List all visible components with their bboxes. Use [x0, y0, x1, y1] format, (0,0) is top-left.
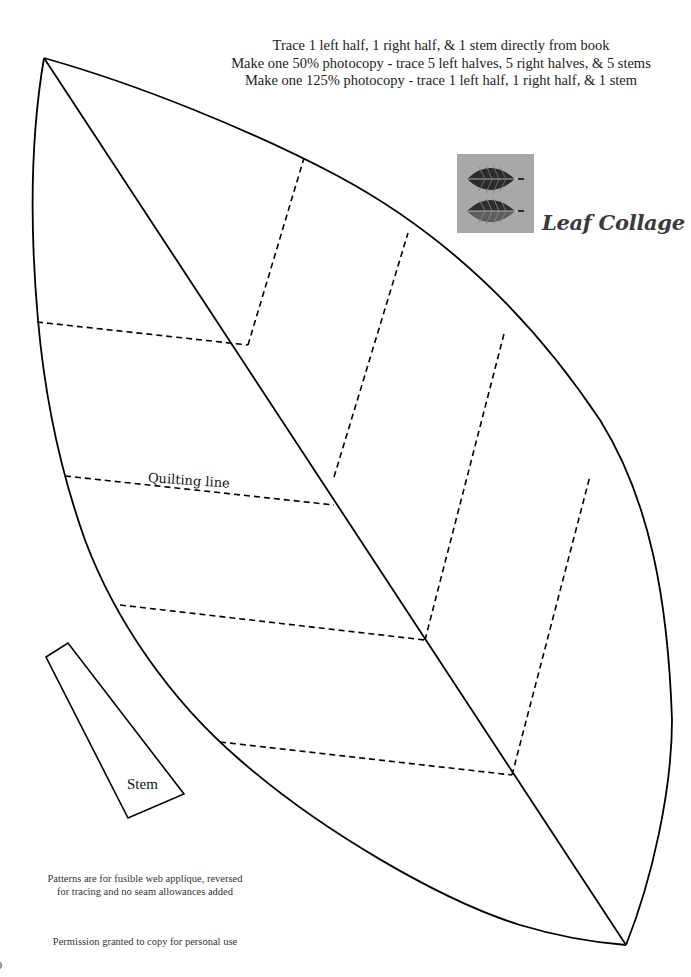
permission-text: Permission granted to copy for personal … [30, 936, 260, 947]
stem-label: Stem [127, 776, 158, 793]
note-line-2: for tracing and no seam allowances added [30, 885, 260, 898]
note-line-1: Patterns are for fusible web applique, r… [30, 872, 260, 885]
leaf-midrib [44, 58, 626, 945]
stem-piece [46, 643, 184, 818]
pattern-note: Patterns are for fusible web applique, r… [30, 872, 260, 898]
leaf-pattern-drawing [0, 0, 691, 977]
leaf-outline-bottom-edge [33, 58, 626, 945]
page-number: 9 [0, 960, 2, 971]
leaf-outline-top-edge [44, 58, 672, 945]
